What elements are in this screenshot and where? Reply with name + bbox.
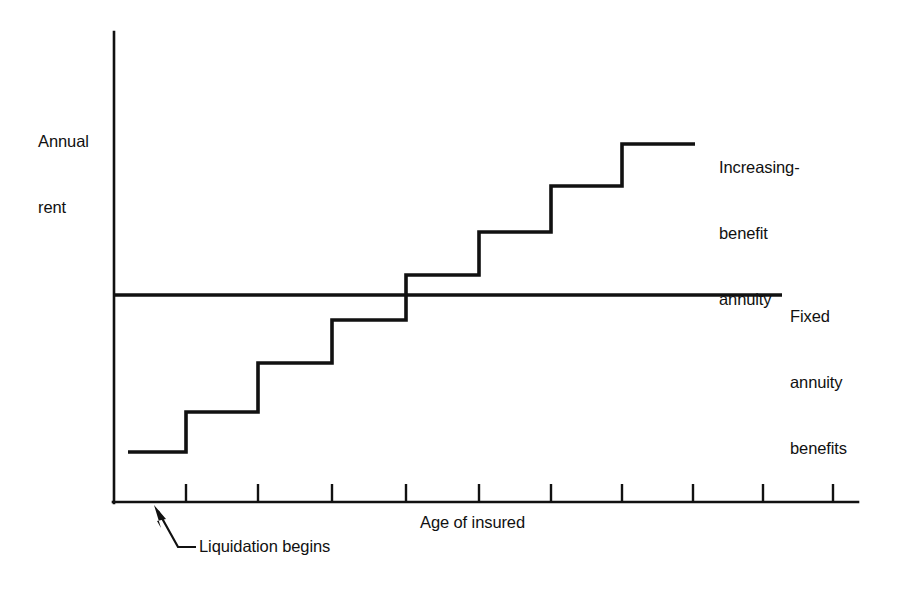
- y-axis-label: Annual rent: [38, 86, 89, 262]
- increasing-benefit-label-line1: Increasing-: [719, 156, 800, 178]
- increasing-benefit-annuity-step-line: [128, 144, 695, 452]
- y-axis-label-line2: rent: [38, 196, 89, 218]
- fixed-annuity-benefits-label: Fixed annuity benefits: [790, 261, 847, 503]
- y-axis-label-line1: Annual: [38, 130, 89, 152]
- increasing-benefit-label-line3: annuity: [719, 288, 800, 310]
- fixed-annuity-label-line3: benefits: [790, 437, 847, 459]
- annuity-comparison-figure: Annual rent Age of insured Increasing- b…: [0, 0, 912, 604]
- increasing-benefit-label-line2: benefit: [719, 222, 800, 244]
- fixed-annuity-label-line1: Fixed: [790, 305, 847, 327]
- fixed-annuity-label-line2: annuity: [790, 371, 847, 393]
- x-axis-label: Age of insured: [420, 511, 525, 533]
- x-axis-ticks: [186, 484, 833, 502]
- increasing-benefit-annuity-label: Increasing- benefit annuity: [719, 112, 800, 354]
- arrow-head-icon: [154, 505, 166, 528]
- liquidation-begins-annotation: [154, 505, 196, 547]
- liquidation-begins-label: Liquidation begins: [199, 535, 330, 557]
